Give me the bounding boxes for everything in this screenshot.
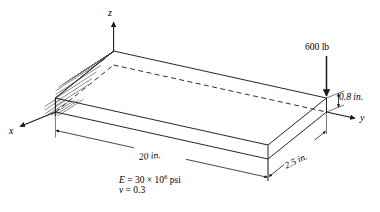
load-label: 600 lb [305, 42, 329, 52]
thickness-dimension-label: 0.8 in. [339, 92, 363, 102]
poisson-equation: = 0.3 [123, 185, 145, 195]
coordinate-axes [20, 22, 355, 145]
modulus-equation: = 30 × 10 [125, 175, 164, 185]
y-axis-label: y [360, 113, 364, 124]
beam-diagram-figure: z y x 600 lb 0.8 in. 20 in. 2.5 in. E = … [0, 0, 380, 212]
length-dimension-label: 20 in. [139, 150, 162, 162]
y-axis-line [327, 112, 356, 118]
x-axis-line [20, 112, 55, 127]
x-axis-label: x [9, 126, 13, 137]
width-dimension [268, 112, 327, 181]
z-axis-label: z [108, 8, 112, 19]
length-dimension [55, 112, 268, 181]
modulus-unit: psi [167, 175, 180, 185]
poisson-ratio-line: v = 0.3 [119, 185, 181, 195]
youngs-modulus-line: E = 30 × 106 psi [119, 175, 181, 185]
material-properties: E = 30 × 106 psi v = 0.3 [119, 175, 181, 196]
beam-body [55, 51, 326, 159]
fixed-support-hatching [45, 51, 114, 116]
diagram-canvas [0, 0, 380, 212]
